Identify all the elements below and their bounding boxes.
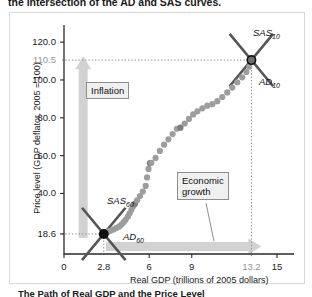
x-tick-label: 9 [172,261,212,272]
y-axis-title: Price level (GDP deflator, 2005 = 100) [32,38,42,238]
data-point [140,188,146,194]
annotation-growth-line1: Economic [182,175,224,186]
lab-sas10-subscript: 10 [272,33,280,40]
data-point [143,183,149,189]
data-point [214,98,220,104]
data-point [165,136,171,142]
x-tick-label: 6 [129,261,169,272]
data-point [152,155,158,161]
ad-sas-curves [82,34,273,260]
x-tick-label: 0 [44,261,84,272]
annotation-economic-growth: Economic growth [177,172,229,200]
annotation-inflation-text: Inflation [91,85,124,96]
data-point [170,131,176,137]
lab-ad60-base: AD [123,231,136,242]
data-point [234,79,240,85]
data-point [224,89,230,95]
data-point [144,174,150,180]
data-point [145,166,151,172]
curve-label-ad60: AD60 [123,231,144,244]
x-tick-label: 2.8 [84,261,124,272]
lab-sas60-subscript: 60 [126,201,134,208]
annotation-growth-line2: growth [182,186,224,197]
figure-root: the intersection of the AD and SAS curve… [0,0,312,297]
curve-label-sas60: SAS60 [107,195,134,208]
lab-ad60-subscript: 60 [136,237,144,244]
figure-bottom-caption: The Path of Real GDP and the Price Level [18,288,308,297]
x-tick-label: 15 [257,261,297,272]
lab-ad10-base: AD [259,76,272,87]
data-point [243,69,249,75]
curve-label-sas10: SAS10 [253,27,280,40]
axis-lines [64,25,294,254]
equilibrium-point-2010 [247,56,255,64]
data-point [161,142,167,148]
chart-panel: 120.0110.5100.080.060.040.018.6 02.86913… [9,12,305,284]
data-point [186,116,192,122]
lab-ad10-subscript: 10 [272,82,280,89]
data-point [157,148,163,154]
data-point [239,74,245,80]
leader-line-growth [206,203,214,241]
annotation-inflation: Inflation [86,82,129,99]
lab-sas10-base: SAS [253,27,272,38]
figure-top-heading: the intersection of the AD and SAS curve… [8,0,304,8]
data-point [148,160,154,166]
curve-label-ad10: AD10 [259,76,280,89]
data-point [219,94,225,100]
equilibrium-point-1960 [99,229,109,239]
lab-sas60-base: SAS [107,195,126,206]
x-axis-title: Real GDP (trillions of 2005 dollars) [130,275,310,285]
data-point [229,84,235,90]
data-point [182,120,188,126]
